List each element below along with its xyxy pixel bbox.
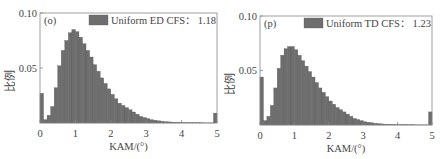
histogram-bar [40,93,44,123]
histogram-bar [129,110,133,123]
histogram-bar [146,119,150,123]
histogram-bar [82,44,86,123]
histogram-bar [346,114,349,125]
x-tick-label: 4 [395,130,401,141]
histogram-bar [107,89,111,123]
histogram-bar [86,50,90,123]
histogram-bar [305,66,308,125]
histogram-bar [93,65,97,123]
panel-label: (p) [264,18,277,30]
histogram-bar [68,33,72,123]
chart-panel-p: 0.050.10012345KAM/(°)比例(p)Uniform TD CFS… [220,0,441,159]
histogram-bar [274,88,277,125]
histogram-bar [322,92,325,125]
histogram-bar [277,68,280,125]
histogram-bar [270,105,273,125]
histogram-chart-o: 0.050.10012345KAM/(°)比例(o)Uniform ED CFS… [0,0,220,159]
histogram-bar [298,55,301,125]
histogram-bar [79,37,83,123]
y-tick-label: 0.05 [239,65,257,76]
histogram-bar [44,120,48,123]
histogram-bar [136,114,140,123]
histogram-bar [315,82,318,125]
y-tick-label: 0.10 [239,11,257,22]
legend-label: Uniform TD CFS： 1.23 [326,18,431,29]
histogram-bar [288,47,291,125]
histogram-bar [150,120,154,123]
legend-label: Uniform ED CFS： 1.18 [111,15,216,26]
histogram-bar [47,115,51,123]
y-tick-label: 0.05 [19,63,37,74]
x-tick-label: 5 [214,128,219,139]
legend-swatch [89,15,108,25]
histogram-bar [260,77,263,125]
histogram-bar [54,88,58,123]
panel-label: (o) [44,15,57,27]
histogram-bar [121,105,125,123]
histogram-chart-p: 0.050.10012345KAM/(°)比例(p)Uniform TD CFS… [220,0,441,159]
histogram-bar [153,120,157,123]
x-tick-label: 0 [257,130,262,141]
x-tick-label: 2 [326,130,331,141]
histogram-bar [104,83,108,123]
histogram-bar [329,101,332,125]
histogram-bar [58,66,62,123]
x-tick-label: 3 [144,128,149,139]
histogram-bar [429,112,432,125]
histogram-bar [51,107,55,124]
histogram-bar [325,97,328,125]
histogram-bar [281,55,284,125]
histogram-bar [100,78,104,123]
histogram-bar [267,116,270,125]
legend-swatch [304,18,323,28]
histogram-bar [360,121,363,125]
histogram-bar [294,50,297,125]
x-tick-label: 2 [108,128,113,139]
x-tick-label: 5 [429,130,434,141]
x-tick-label: 0 [37,128,42,139]
histogram-bar [284,49,287,125]
histogram-bar [353,118,356,125]
histogram-bar [308,72,311,125]
bars [260,47,432,125]
histogram-bar [132,112,136,123]
histogram-bar [90,57,94,123]
histogram-bar [367,122,370,125]
x-tick-label: 1 [292,130,297,141]
histogram-bar [139,116,143,123]
histogram-bar [111,94,115,123]
histogram-bar [114,99,118,123]
histogram-bar [72,30,76,124]
y-tick-label: 0.10 [19,8,37,19]
histogram-bar [339,110,342,125]
histogram-bar [213,113,217,123]
histogram-bar [318,88,321,125]
histogram-bar [75,32,79,123]
histogram-bar [336,108,339,125]
y-axis-label: 比例 [223,73,236,95]
x-axis-label: KAM/(°) [109,141,148,153]
bars [40,30,217,124]
histogram-bar [65,41,69,124]
histogram-bar [301,61,304,125]
chart-panel-o: 0.050.10012345KAM/(°)比例(o)Uniform ED CFS… [0,0,220,159]
histogram-bar [332,104,335,125]
histogram-bar [312,77,315,125]
histogram-bar [263,121,266,125]
x-tick-label: 1 [73,128,78,139]
x-axis-label: KAM/(°) [327,143,366,155]
histogram-bar [356,120,359,125]
histogram-bar [363,122,366,125]
histogram-bar [97,71,101,123]
histogram-bar [125,108,129,123]
histogram-bar [349,116,352,125]
histogram-bar [291,47,294,125]
y-axis-label: 比例 [3,70,16,92]
x-tick-label: 4 [179,128,185,139]
histogram-bar [143,118,147,124]
histogram-bar [118,103,122,123]
histogram-bar [61,50,65,123]
histogram-bar [343,112,346,125]
x-tick-label: 3 [361,130,366,141]
